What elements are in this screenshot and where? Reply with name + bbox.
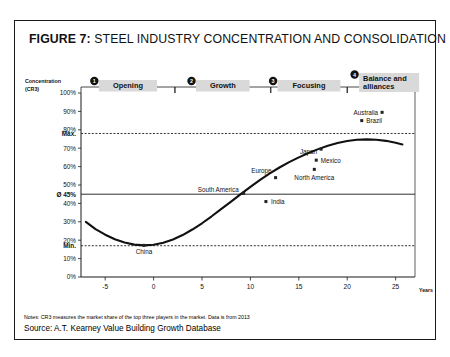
data-point-marker (381, 111, 384, 114)
data-point-marker (274, 176, 277, 179)
y-axis-tick-label: 50% (63, 181, 76, 188)
y-axis-tick-label: 100% (60, 89, 77, 96)
concentration-scatter-chart: Opening1Growth2Focusing3Balance andallia… (15, 21, 437, 341)
data-point-label: North America (294, 174, 334, 181)
y-axis-tick-label: 0% (67, 273, 77, 280)
data-point-label: India (271, 198, 285, 205)
y-axis-tick-label: 90% (63, 108, 76, 115)
data-point-label: Europe (251, 167, 272, 175)
phase-number-text: 4 (353, 72, 356, 78)
x-axis-tick-label: 5 (200, 283, 204, 290)
data-point-label: South America (198, 186, 239, 193)
data-point-marker (264, 200, 267, 203)
phase-label: Growth (210, 81, 236, 90)
y-axis-tick-label: 60% (63, 163, 76, 170)
data-point-marker (360, 119, 363, 122)
y-axis-tick-label: 70% (63, 145, 76, 152)
data-point-marker (320, 148, 323, 151)
x-axis-tick-label: 10 (247, 283, 255, 290)
chart-area: Opening1Growth2Focusing3Balance andallia… (15, 21, 437, 341)
figure-panel: FIGURE 7: STEEL INDUSTRY CONCENTRATION A… (14, 20, 436, 340)
y-axis-tick-label: 30% (63, 218, 76, 225)
y-axis-tick-label: 40% (63, 200, 76, 207)
data-point-marker (313, 168, 316, 171)
phase-label-line2: alliances (363, 82, 394, 91)
source-line: Source: A.T. Kearney Value Building Grow… (24, 317, 424, 335)
y-axis-title-line2: (CR3) (25, 86, 39, 92)
phase-label: Focusing (293, 81, 326, 90)
data-point-label: Japan (300, 148, 318, 156)
y-axis-tick-label: 10% (63, 255, 76, 262)
x-axis-tick-label: 20 (344, 283, 352, 290)
data-point-label: Australia (354, 109, 379, 116)
source-text: Source: A.T. Kearney Value Building Grow… (24, 324, 221, 333)
phase-number-text: 2 (190, 78, 193, 84)
data-point-marker (315, 159, 318, 162)
phase-label: Opening (113, 81, 143, 90)
reference-label-average: Ø 45% (56, 191, 76, 198)
reference-label-min: Min. (63, 242, 76, 249)
phase-banner-group: Opening1Growth2Focusing3Balance andallia… (81, 70, 419, 93)
y-axis-title-line1: Concentration (25, 78, 61, 84)
reference-label-max: Max. (62, 130, 76, 137)
data-point-marker (142, 244, 145, 247)
data-point-label: Brazil (366, 117, 382, 124)
x-axis-title: Years (419, 287, 433, 293)
phase-number-text: 1 (93, 78, 96, 84)
data-point-label: Mexico (321, 157, 341, 164)
x-axis-tick-label: 0 (152, 283, 156, 290)
x-axis-tick-label: -5 (102, 283, 108, 290)
x-axis-tick-label: 15 (295, 283, 303, 290)
x-axis-tick-label: 25 (392, 283, 400, 290)
data-point-marker (242, 192, 245, 195)
data-points-group: ChinaSouth AmericaIndiaEuropeNorth Ameri… (136, 109, 384, 256)
data-point-label: China (136, 248, 153, 255)
phase-number-text: 3 (272, 78, 275, 84)
